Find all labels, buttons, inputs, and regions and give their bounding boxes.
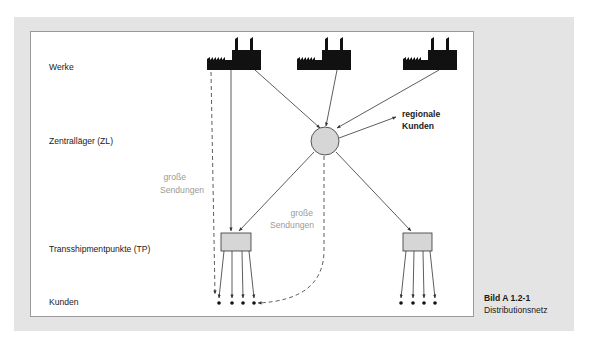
level-label-kunden: Kunden — [49, 297, 79, 307]
factory-icon — [207, 37, 261, 70]
flow-tp2-kunde — [430, 251, 435, 298]
annotation-regional-2: Kunden — [402, 121, 434, 131]
flow-tp1-kunde — [249, 251, 254, 298]
tp-node-2 — [403, 233, 432, 251]
flow-tp2-kunde — [413, 251, 414, 298]
flow-werk1-zl — [255, 70, 320, 128]
figure-caption: Bild A 1.2-1 Distributionsnetz — [484, 292, 548, 316]
flow-tp2-kunde — [423, 251, 424, 298]
flow-tp2-kunde — [401, 251, 406, 298]
customer-node — [252, 301, 256, 305]
factory-icon — [403, 37, 457, 70]
annotation-large-left-2: Sendungen — [160, 185, 204, 195]
level-label-tp: Transshipmentpunkte (TP) — [49, 244, 151, 254]
customer-node — [411, 301, 415, 305]
customer-node — [217, 301, 221, 305]
flow-werk3-zl — [337, 70, 439, 128]
flow-werk2-zl — [326, 70, 337, 126]
flow-tp1-kunde — [219, 251, 224, 298]
level-label-zentrallager: Zentralläger (ZL) — [49, 136, 113, 146]
central-warehouse-node — [311, 127, 339, 155]
level-label-werke: Werke — [49, 62, 74, 72]
annotation-large-mid: große — [291, 208, 314, 218]
flow-zl-regional — [339, 117, 396, 138]
factory-icon — [297, 37, 351, 70]
annotation-large-left: große — [164, 172, 187, 182]
annotation-large-mid-2: Sendungen — [270, 220, 314, 230]
tp-node-1 — [221, 233, 251, 251]
flow-tp1-kunde — [242, 251, 243, 298]
customer-node — [422, 301, 426, 305]
customer-node — [399, 301, 403, 305]
flow-werk1-kunden-dashed — [211, 72, 215, 294]
customer-node — [433, 301, 437, 305]
customer-node — [230, 301, 234, 305]
flow-zl-tp2 — [336, 152, 411, 231]
figure-number: Bild A 1.2-1 — [484, 292, 548, 304]
figure-title: Distributionsnetz — [484, 305, 548, 315]
customer-node — [241, 301, 245, 305]
annotation-regional: regionale — [402, 109, 440, 119]
